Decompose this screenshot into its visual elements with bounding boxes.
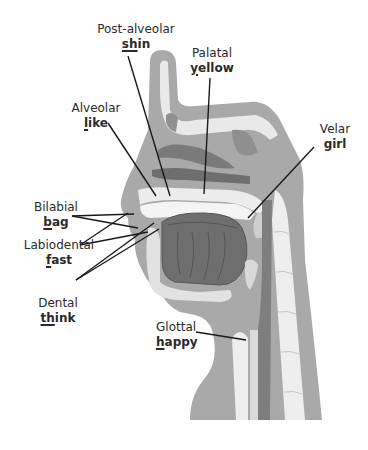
place-name: Palatal xyxy=(182,46,242,61)
underlined-sound: th xyxy=(41,311,55,325)
example-word: fast xyxy=(14,253,104,268)
word-rest: irl xyxy=(332,137,346,151)
place-name: Velar xyxy=(312,122,358,137)
label-bilabial: Bilabial bag xyxy=(26,200,86,230)
label-glottal: Glottal happy xyxy=(156,320,216,350)
place-name: Dental xyxy=(28,296,88,311)
place-name: Post-alveolar xyxy=(86,22,186,37)
underlined-sound: y xyxy=(190,61,198,75)
word-rest: ag xyxy=(52,215,69,229)
place-name: Alveolar xyxy=(66,101,126,116)
underlined-sound: h xyxy=(156,335,165,349)
place-name: Labiodental xyxy=(14,238,104,253)
esophagus xyxy=(250,330,258,420)
label-palatal: Palatal yellow xyxy=(182,46,242,76)
place-name: Bilabial xyxy=(26,200,86,215)
example-word: girl xyxy=(312,137,358,152)
word-rest: ink xyxy=(55,311,76,325)
word-rest: in xyxy=(138,37,151,51)
example-word: yellow xyxy=(182,61,242,76)
example-word: happy xyxy=(156,335,216,350)
example-word: like xyxy=(66,116,126,131)
example-word: shin xyxy=(86,37,186,52)
label-post-alveolar: Post-alveolar shin xyxy=(86,22,186,52)
word-rest: ike xyxy=(88,116,108,130)
word-rest: ast xyxy=(51,253,72,267)
label-dental: Dental think xyxy=(28,296,88,326)
label-labiodental: Labiodental fast xyxy=(14,238,104,268)
example-word: think xyxy=(28,311,88,326)
underlined-sound: g xyxy=(324,137,333,151)
label-alveolar: Alveolar like xyxy=(66,101,126,131)
word-rest: appy xyxy=(165,335,198,349)
example-word: bag xyxy=(26,215,86,230)
place-name: Glottal xyxy=(156,320,216,335)
underlined-sound: sh xyxy=(122,37,138,51)
word-rest: ellow xyxy=(198,61,234,75)
underlined-sound: b xyxy=(43,215,52,229)
label-velar: Velar girl xyxy=(312,122,358,152)
